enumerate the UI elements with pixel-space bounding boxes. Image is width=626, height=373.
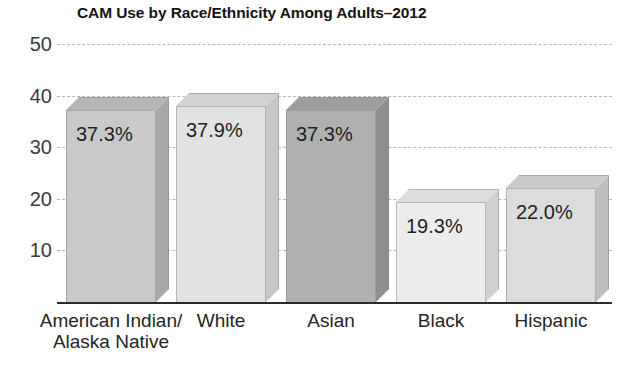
bar-value-label: 37.3% (76, 124, 133, 144)
bar-top-face (506, 175, 609, 188)
y-tick-label-10: 10 (8, 240, 52, 260)
bar-side-face (486, 189, 499, 302)
y-tick-label-30: 30 (8, 137, 52, 157)
bar-value-label: 37.3% (296, 124, 353, 144)
bar-value-label: 22.0% (516, 202, 573, 222)
bar-top-face (286, 97, 389, 110)
bar-value-label: 37.9% (186, 120, 243, 140)
x-axis-label: Hispanic (484, 310, 618, 331)
bar-value-label: 19.3% (406, 216, 463, 236)
plot-area: 1020304050 37.3%37.9%37.3%19.3%22.0% Ame… (0, 0, 626, 373)
bar (396, 189, 486, 302)
bar-side-face (596, 175, 609, 302)
y-tick-label-50: 50 (8, 34, 52, 54)
bar (506, 175, 596, 302)
y-tick-label-40: 40 (8, 86, 52, 106)
bar-side-face (156, 97, 169, 302)
y-tick-label-20: 20 (8, 189, 52, 209)
gridline-50 (57, 44, 612, 45)
bar-top-face (66, 97, 169, 110)
x-axis-baseline (57, 302, 612, 304)
bar-side-face (266, 93, 279, 302)
bar-side-face (376, 97, 389, 302)
bar-top-face (176, 93, 279, 106)
bar-chart: CAM Use by Race/Ethnicity Among Adults–2… (0, 0, 626, 373)
bar-top-face (396, 189, 499, 202)
